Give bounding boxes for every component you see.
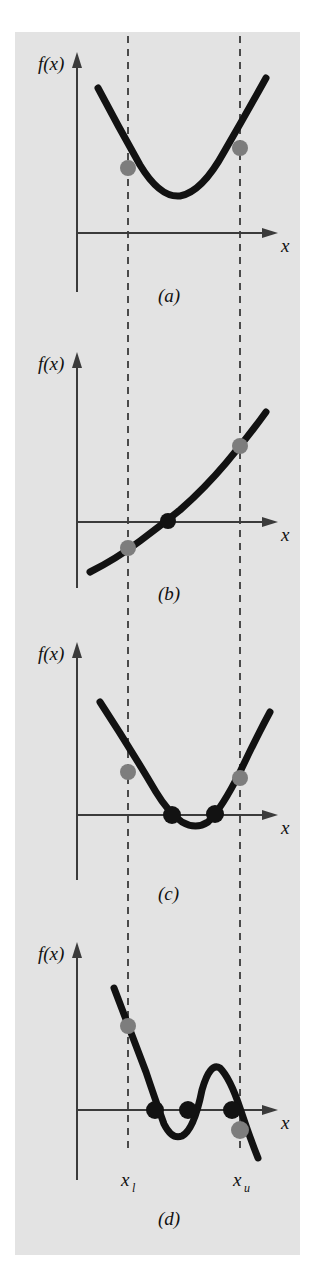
panel-a-endpoint-dot-xu <box>232 140 248 156</box>
panel-c-caption: (c) <box>158 883 179 905</box>
panel-c-root-dot-2 <box>206 805 224 823</box>
panel-a-endpoint-dot-xl <box>120 160 136 176</box>
panel-b-endpoint-dot-xu <box>232 438 248 454</box>
panel-c-ylabel: f(x) <box>38 643 64 665</box>
panel-d-root-dot-3 <box>223 1101 241 1119</box>
panel-b-endpoint-dot-xl <box>120 540 136 556</box>
panel-b-xlabel: x <box>280 524 290 545</box>
xu-subscript: u <box>244 1181 250 1195</box>
panel-d-caption: (d) <box>158 1208 180 1230</box>
panel-b-root-dot-1 <box>160 513 176 529</box>
panel-c-root-dot-1 <box>163 806 181 824</box>
figure-root: f(x) x (a) f(x) x (b) f(x) x (c) <box>0 0 312 1284</box>
panel-d-ylabel: f(x) <box>38 943 64 965</box>
panel-b-ylabel: f(x) <box>38 353 64 375</box>
panel-a-caption: (a) <box>158 285 180 307</box>
xu-base: x <box>232 1169 242 1190</box>
xl-base: x <box>120 1169 130 1190</box>
panel-d-endpoint-dot-xl <box>120 1018 136 1034</box>
panel-b-caption: (b) <box>158 583 180 605</box>
panel-c-xlabel: x <box>280 817 290 838</box>
panel-d-endpoint-dot-xu <box>231 1121 249 1139</box>
panel-c-endpoint-dot-xu <box>232 770 248 786</box>
panel-a-xlabel: x <box>280 235 290 256</box>
panel-d-root-dot-2 <box>179 1101 197 1119</box>
panel-a-ylabel: f(x) <box>38 53 64 75</box>
panel-d-xlabel: x <box>280 1112 290 1133</box>
panel-d-root-dot-1 <box>146 1101 164 1119</box>
panel-c-endpoint-dot-xl <box>120 764 136 780</box>
